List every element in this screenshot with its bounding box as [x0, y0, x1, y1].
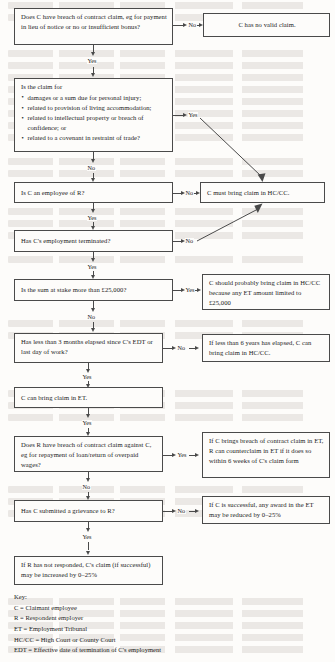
node-q2-bullet: related to a covenant in restraint of tr…: [21, 133, 167, 143]
edge-q6-no: [163, 348, 172, 349]
arrowhead-q6-no-2: [195, 346, 199, 350]
node-q3-text: Is C an employee of R?: [21, 188, 85, 198]
arrowhead-s1-yes-a: [86, 414, 90, 418]
node-q1: Does C have breach of contract claim, eg…: [14, 8, 173, 45]
edge-label-q7-yes: Yes: [177, 452, 187, 458]
edge-label-q5-no: No: [87, 314, 96, 320]
node-o4-six-years: If less than 6 years has elapsed, C can …: [202, 334, 330, 362]
node-q1-text: Does C have breach of contract claim, eg…: [21, 12, 167, 32]
node-q7-text: Does R have breach of contract claim aga…: [21, 440, 157, 469]
edge-label-q2-yes: Yes: [188, 112, 198, 118]
node-s2-increased-award: If R has not responded, C's claim (if su…: [14, 556, 163, 585]
edge-q8-yes-b: [88, 542, 89, 550]
node-s1-claim-in-et: C can bring claim in ET.: [14, 387, 163, 408]
node-q8-text: Has C submitted a grievance to R?: [21, 506, 115, 516]
node-o6-text: If C is successful, any award in the ET …: [209, 500, 324, 520]
key-entry-edt: EDT = Effective date of termination of C…: [14, 645, 161, 656]
edge-label-q1-no: No: [188, 22, 197, 28]
edge-q8-no: [163, 511, 172, 512]
node-q2-bullet: related to intellectual property or brea…: [21, 113, 167, 133]
node-o3-text: C should probably bring claim in HC/CC b…: [209, 278, 324, 307]
node-o1-no-valid-claim: C has no valid claim.: [203, 13, 330, 37]
arrowhead-q5-yes-2: [197, 288, 201, 292]
node-q7-respondent-claim: Does R have breach of contract claim aga…: [14, 436, 163, 472]
node-o2-hccc: C must bring claim in HC/CC.: [200, 182, 325, 203]
edge-q5-yes: [173, 290, 181, 291]
node-o4-text: If less than 6 years has elapsed, C can …: [209, 338, 324, 358]
arrowhead-q3-yes-a: [91, 209, 95, 213]
arrowhead-q8-yes-b: [86, 551, 90, 555]
key-legend: Key: C = Claimant employee R = Responden…: [14, 592, 161, 656]
arrowhead-q5-no-a: [91, 308, 95, 312]
edge-q3-no: [173, 193, 181, 194]
node-q4-terminated: Has C's employment terminated?: [14, 230, 173, 252]
node-q5-text: Is the sum at stake more than £25,000?: [21, 285, 126, 295]
arrowhead-q1-yes-b: [91, 73, 95, 77]
arrowhead-q8-no: [172, 509, 176, 513]
node-o1-text: C has no valid claim.: [238, 20, 295, 30]
key-entry-hccc: HC/CC = High Court or County Court: [14, 635, 161, 646]
edge-label-q5-yes: Yes: [185, 287, 195, 293]
node-o6-reduced-award: If C is successful, any award in the ET …: [202, 496, 330, 524]
edge-label-q4-yes: Yes: [87, 264, 97, 270]
node-o3-limited-25000: C should probably bring claim in HC/CC b…: [202, 274, 330, 310]
node-s1-text: C can bring claim in ET.: [21, 393, 87, 403]
flowchart-page: Does C have breach of contract claim, eg…: [0, 0, 335, 662]
arrowhead-q2-yes: [183, 113, 187, 117]
arrowhead-q7-yes-2: [195, 453, 199, 457]
key-entry-c: C = Claimant employee: [14, 603, 161, 614]
key-entry-r: R = Respondent employer: [14, 613, 161, 624]
edge-label-q2-no: No: [87, 165, 96, 171]
arrowhead-q7-yes: [172, 453, 176, 457]
node-q2-bullet: damages or a sum due for personal injury…: [21, 93, 167, 103]
node-o2-text: C must bring claim in HC/CC.: [207, 188, 289, 198]
arrowhead-q8-yes-a: [86, 528, 90, 532]
arrowhead-q5-no-b: [91, 328, 95, 332]
arrowhead-q8-no-2: [195, 509, 199, 513]
node-o5-text: If C brings breach of contract claim in …: [209, 436, 324, 465]
edge-label-s1-yes: Yes: [82, 420, 92, 426]
node-q6-three-months: Has less than 3 months elapsed since C's…: [14, 333, 163, 363]
node-q3-employee: Is C an employee of R?: [14, 182, 173, 203]
arrowhead-q4-yes-a: [91, 258, 95, 262]
node-q5-sum-at-stake: Is the sum at stake more than £25,000?: [14, 279, 173, 301]
arrowhead-q2-no-a: [91, 159, 95, 163]
node-o5-counterclaim: If C brings breach of contract claim in …: [202, 432, 330, 478]
arrowhead-q6-no: [172, 346, 176, 350]
edge-q7-yes: [163, 455, 172, 456]
node-q4-text: Has C's employment terminated?: [21, 236, 110, 246]
edge-label-q7-no: No: [82, 484, 91, 490]
edge-label-q6-no: No: [177, 345, 186, 351]
edge-q4-no: [173, 241, 181, 242]
edge-q1-no: [173, 25, 183, 26]
node-q8-grievance: Has C submitted a grievance to R?: [14, 500, 163, 522]
edge-label-q3-yes: Yes: [87, 215, 97, 221]
node-q2-claim-type: Is the claim for damages or a sum due fo…: [14, 78, 173, 152]
edge-q2-yes: [173, 115, 183, 116]
node-q2-bullet: related to provision of living accommoda…: [21, 103, 167, 113]
node-q2-bullet-list: damages or a sum due for personal injury…: [21, 93, 167, 143]
arrowhead-q7-no-a: [86, 478, 90, 482]
edge-label-q1-yes: Yes: [87, 58, 97, 64]
arrowhead-q1-no: [183, 23, 187, 27]
node-q6-text: Has less than 3 months elapsed since C's…: [21, 337, 157, 357]
node-s2-text: If R has not responded, C's claim (if su…: [21, 560, 157, 580]
edge-label-q8-yes: Yes: [82, 534, 92, 540]
edge-label-q4-no: No: [185, 238, 194, 244]
edge-label-q3-no: No: [185, 190, 194, 196]
edge-label-q6-yes: Yes: [82, 374, 92, 380]
node-q2-lead: Is the claim for: [21, 82, 167, 92]
arrowhead-q1-no-2: [199, 23, 203, 27]
edge-label-q8-no: No: [177, 508, 186, 514]
key-entry-et: ET = Employment Tribunal: [14, 624, 161, 635]
key-title: Key:: [14, 592, 161, 603]
arrowhead-q1-yes-a: [91, 52, 95, 56]
